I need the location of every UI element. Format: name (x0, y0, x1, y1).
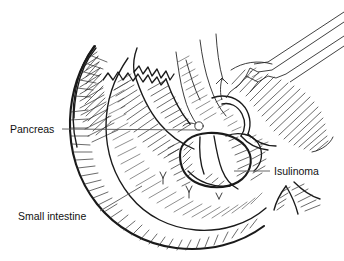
forceps (226, 12, 344, 98)
label-isulinoma: Isulinoma (274, 165, 319, 177)
leader-pancreas (62, 129, 200, 130)
inner-bed-hatching-left (109, 74, 131, 122)
mesentery-folds (176, 34, 226, 126)
insulinoma-illustration: Pancreas Isulinoma Small intestine (0, 0, 344, 261)
pancreas-lobule-hatching-center (114, 80, 179, 158)
duodenum-wall-hatching (70, 56, 257, 250)
vessel-loop-hatching (216, 99, 268, 145)
vessel-node (183, 122, 203, 130)
duodenum-inner-border (106, 58, 266, 230)
lower-right-tissue-fold (274, 182, 320, 214)
label-pancreas: Pancreas (10, 123, 54, 135)
label-small-intestine: Small intestine (18, 210, 86, 222)
intestinal-bed-hatching (112, 123, 262, 218)
vessel-loop (212, 96, 276, 150)
lower-right-tissue-hatching (277, 184, 320, 211)
upper-left-tissue-hatching (85, 56, 111, 135)
leader-small-intestine (100, 186, 142, 211)
